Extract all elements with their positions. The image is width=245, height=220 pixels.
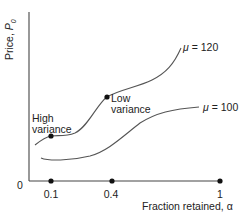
y-axis-label-sub: 0 [10,19,17,23]
x-tick-0.1: 0.1 [44,188,59,200]
annotation-line2: variance [32,124,72,135]
annotation-line2: variance [111,104,151,115]
annotation-low-variance: Low variance [111,93,151,115]
y-axis-label: Price, P0 [3,19,17,60]
x-axis-point-1 [217,178,222,183]
x-tick-1: 1 [217,188,223,200]
annotation-high-variance: High variance [32,113,72,135]
x-axis-label: Fraction retained, α [142,201,233,212]
y-axis-label-var: P [3,23,15,30]
x-axis-point-0.4 [109,178,114,183]
x-tick-0.4: 0.4 [104,188,119,200]
mu-value: = 120 [192,41,219,53]
mu-value: = 100 [212,101,239,113]
series-label-mu-100: μ = 100 [203,102,238,113]
y-axis-label-text: Price, [3,30,15,60]
mu-symbol: μ [203,101,209,113]
mu-symbol: μ [183,41,189,53]
series-label-mu-120: μ = 120 [183,42,218,53]
x-axis-point-0.1 [48,178,53,183]
low-variance-point [104,94,109,99]
origin-label: 0 [17,180,23,191]
